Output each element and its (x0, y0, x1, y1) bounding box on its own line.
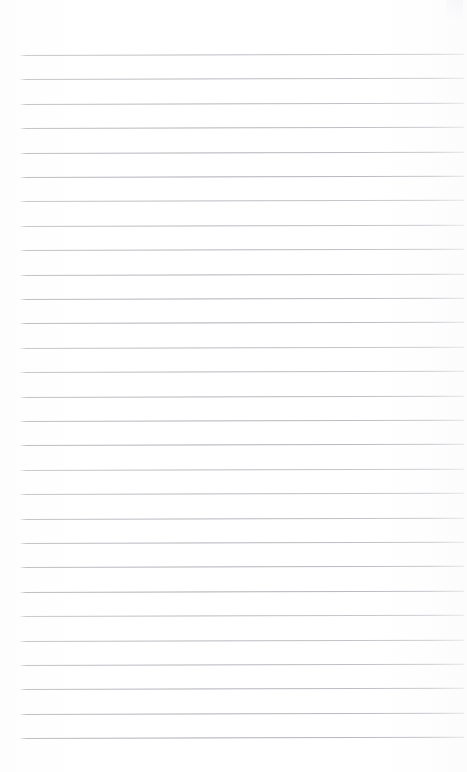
ruled-line (20, 395, 464, 397)
ruled-line (20, 444, 464, 446)
ruled-line (20, 566, 464, 568)
ruled-line (20, 151, 464, 153)
ruled-lines-layer (0, 0, 467, 772)
ruled-line (20, 249, 464, 251)
ruled-line (20, 176, 464, 178)
ruled-line (20, 713, 464, 715)
ruled-line (20, 615, 464, 617)
ruled-line (20, 54, 464, 56)
ruled-line (20, 322, 464, 324)
ruled-line (20, 517, 464, 519)
ruled-line (20, 371, 464, 373)
ruled-line (20, 493, 464, 495)
notepad-page (0, 0, 467, 772)
ruled-line (20, 347, 464, 349)
ruled-line (20, 78, 464, 80)
ruled-line (20, 542, 464, 544)
ruled-line (20, 420, 464, 422)
ruled-line (20, 591, 464, 593)
ruled-line (20, 273, 464, 275)
ruled-line (20, 688, 464, 690)
ruled-line (20, 737, 464, 739)
ruled-line (20, 469, 464, 471)
ruled-line (20, 103, 464, 105)
ruled-line (20, 298, 464, 300)
ruled-line (20, 225, 464, 227)
ruled-line (20, 639, 464, 641)
ruled-line (20, 127, 464, 129)
ruled-line (20, 200, 464, 202)
ruled-line (20, 664, 464, 666)
